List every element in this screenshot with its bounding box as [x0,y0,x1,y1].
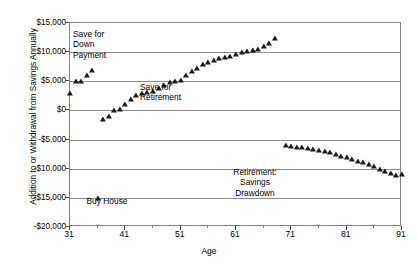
data-point-marker [67,90,73,95]
gridline [70,81,400,82]
y-axis-tick-marks [0,22,69,226]
x-axis-minor-tick-mark [373,226,374,228]
data-point-marker [89,67,95,72]
data-point-marker [106,114,112,119]
x-axis-minor-tick-mark [207,226,208,228]
savings-chart: Addition to or Withdrawal from Savings A… [0,0,418,269]
data-point-marker [266,40,272,45]
x-axis-tick-label: 81 [326,229,366,239]
annotation-retirement-savings-drawdown: Retirement: Savings Drawdown [200,167,310,198]
annotation-save-for-retirement: Save for Retirement [140,82,181,103]
annotation-buy-house: Buy House [62,196,152,206]
x-axis-minor-tick-mark [263,226,264,228]
x-axis-minor-tick-mark [152,226,153,228]
x-axis-title: Age [0,246,418,256]
x-axis-tick-label: 31 [49,229,89,239]
data-point-marker [117,106,123,111]
x-axis-tick-labels: 31415161718191 [69,229,401,243]
x-axis-minor-tick-mark [318,226,319,228]
data-point-marker [399,171,405,176]
data-point-marker [83,72,89,77]
annotation-save-for-down-payment: Save for Down Payment [73,29,106,60]
data-point-marker [122,101,128,106]
x-axis-tick-label: 91 [381,229,418,239]
x-axis-tick-label: 41 [104,229,144,239]
data-point-marker [78,78,84,83]
x-axis-tick-label: 71 [270,229,310,239]
x-axis-tick-label: 51 [160,229,200,239]
data-point-marker [272,36,278,41]
gridline [70,140,400,141]
x-axis-minor-tick-mark [97,226,98,228]
x-axis-tick-label: 61 [215,229,255,239]
